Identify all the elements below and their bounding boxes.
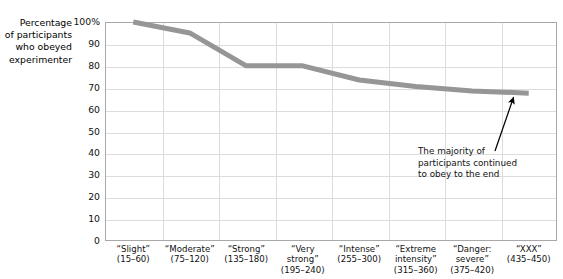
y-tick-label: 20 (68, 192, 100, 202)
gridline-horizontal (106, 111, 556, 112)
x-axis-tick-labels: “Slight” (15–60)“Moderate” (75–120)“Stro… (105, 244, 557, 279)
y-tick-label: 80 (68, 61, 100, 71)
gridline-horizontal (106, 45, 556, 46)
y-tick-label: 100% (68, 17, 100, 27)
gridline-horizontal (106, 67, 556, 68)
gridline-vertical (163, 23, 164, 240)
y-axis-tick-labels: 100%9080706050403020100 (66, 22, 100, 241)
y-axis-caption: Percentage of participants who obeyed ex… (0, 17, 72, 66)
y-tick-label: 10 (68, 214, 100, 224)
gridline-vertical (389, 23, 390, 240)
y-tick-label: 60 (68, 105, 100, 115)
plot-area (105, 22, 557, 241)
y-tick-label: 90 (68, 39, 100, 49)
annotation-text: The majority of participants continued t… (418, 146, 558, 181)
x-tick-label: “XXX” (435–450) (488, 244, 563, 265)
chart-figure: Percentage of participants who obeyed ex… (0, 0, 563, 279)
gridline-vertical (276, 23, 277, 240)
y-tick-label: 40 (68, 148, 100, 158)
gridline-vertical (332, 23, 333, 240)
gridline-vertical (219, 23, 220, 240)
gridline-horizontal (106, 89, 556, 90)
y-tick-label: 70 (68, 83, 100, 93)
y-tick-label: 30 (68, 170, 100, 180)
gridline-vertical (502, 23, 503, 240)
gridline-horizontal (106, 133, 556, 134)
gridline-horizontal (106, 220, 556, 221)
gridline-vertical (445, 23, 446, 240)
gridline-horizontal (106, 198, 556, 199)
y-tick-label: 50 (68, 127, 100, 137)
